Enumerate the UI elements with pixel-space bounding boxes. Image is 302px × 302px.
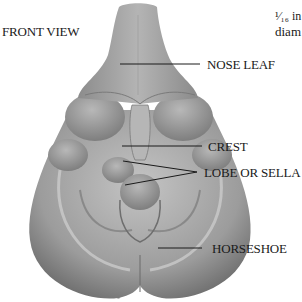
corner-text-line2: diam	[275, 24, 301, 40]
crest-shape	[130, 105, 150, 160]
horseshoe-label: HORSESHOE	[212, 241, 287, 257]
corner-text-line1: ¹⁄₁₆ in	[275, 8, 301, 24]
lobe-or-sella-label: LOBE OR SELLA	[204, 165, 300, 181]
front-view-title: FRONT VIEW	[2, 24, 79, 40]
crest-label: CREST	[208, 139, 247, 155]
nose-leaf-label: NOSE LEAF	[207, 57, 275, 73]
